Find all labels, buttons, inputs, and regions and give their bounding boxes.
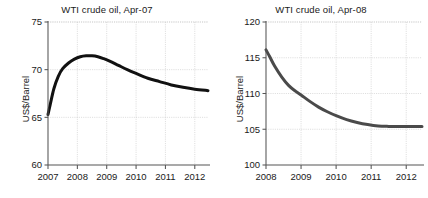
dual-chart-figure: WTI crude oil, Apr-07 US$/Barrel 6065707… <box>0 0 428 198</box>
chart-panel-left: WTI crude oil, Apr-07 US$/Barrel 6065707… <box>0 0 214 198</box>
x-tick-label: 2011 <box>361 171 381 182</box>
plot-area-left: 60657075200720082009201020112012 <box>0 0 214 198</box>
plot-area-right: 10010511011512020082009201020112012 <box>214 0 428 198</box>
y-tick-label: 65 <box>31 112 42 123</box>
x-tick-label: 2008 <box>255 171 276 182</box>
y-tick-label: 60 <box>31 159 42 170</box>
series-line <box>266 50 422 127</box>
x-tick-label: 2010 <box>126 171 147 182</box>
x-tick-label: 2009 <box>96 171 117 182</box>
x-tick-label: 2010 <box>326 171 347 182</box>
x-tick-label: 2008 <box>67 171 88 182</box>
y-tick-label: 100 <box>244 159 260 170</box>
y-tick-label: 120 <box>244 16 260 27</box>
x-tick-label: 2007 <box>37 171 58 182</box>
y-tick-label: 70 <box>31 64 42 75</box>
y-tick-label: 115 <box>245 52 260 63</box>
x-tick-label: 2012 <box>396 171 417 182</box>
chart-panel-right: WTI crude oil, Apr-08 US$/Barrel 1001051… <box>214 0 428 198</box>
x-tick-label: 2009 <box>290 171 311 182</box>
y-tick-label: 110 <box>245 88 260 99</box>
y-tick-label: 105 <box>244 124 260 135</box>
x-tick-label: 2011 <box>155 171 175 182</box>
plot-svg-left: 60657075200720082009201020112012 <box>0 0 214 198</box>
plot-svg-right: 10010511011512020082009201020112012 <box>214 0 428 198</box>
series-line <box>48 56 208 115</box>
y-tick-label: 75 <box>31 16 42 27</box>
x-tick-label: 2012 <box>184 171 205 182</box>
